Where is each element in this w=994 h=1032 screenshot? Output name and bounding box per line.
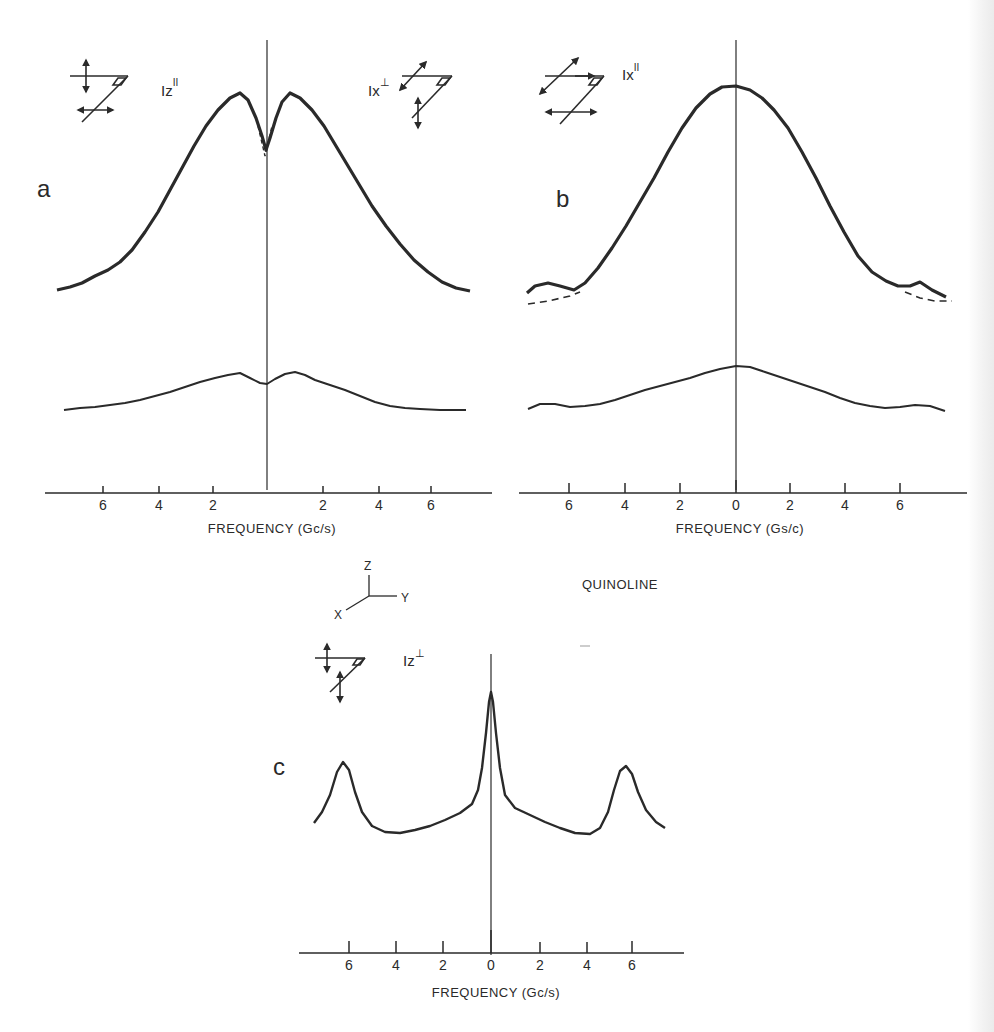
panel-a: IzII Ix⊥ a 6 4 [37, 40, 492, 536]
x-tick-labels-b: 6 4 2 0 2 4 6 [565, 497, 904, 513]
x-axis-label-b: FREQUENCY (Gs/c) [676, 521, 804, 536]
svg-text:4: 4 [583, 957, 591, 973]
spectrum-trace [314, 692, 665, 834]
svg-text:4: 4 [841, 497, 849, 513]
svg-text:2: 2 [536, 957, 544, 973]
panel-c-label: Iz⊥ [403, 647, 425, 669]
svg-text:4: 4 [155, 497, 163, 513]
svg-text:2: 2 [319, 497, 327, 513]
lower-spectrum-trace [64, 372, 466, 410]
panel-b-label: IxII [622, 62, 639, 83]
svg-text:0: 0 [487, 957, 495, 973]
x-axis-label-a: FREQUENCY (Gc/s) [208, 521, 336, 536]
scan-page-edge [968, 0, 994, 1032]
svg-text:2: 2 [676, 497, 684, 513]
x-tick-labels-c: 6 4 2 0 2 4 6 [345, 957, 636, 973]
svg-text:0: 0 [732, 497, 740, 513]
svg-text:6: 6 [896, 497, 904, 513]
panel-b-letter: b [556, 185, 569, 212]
polarization-diagram-icon [400, 62, 452, 128]
polarization-diagram-icon [70, 60, 128, 122]
x-axis-c [299, 930, 684, 953]
compound-name: QUINOLINE [582, 577, 658, 592]
x-axis-a [45, 486, 492, 493]
svg-text:2: 2 [209, 497, 217, 513]
svg-text:6: 6 [628, 957, 636, 973]
x-axis-label-c: FREQUENCY (Gc/s) [432, 985, 560, 1000]
svg-text:6: 6 [565, 497, 573, 513]
panel-a-label-right: Ix⊥ [368, 76, 390, 99]
svg-text:4: 4 [621, 497, 629, 513]
polarization-diagram-icon [540, 58, 604, 124]
panel-a-label-left: IzII [161, 77, 178, 99]
panel-c: Iz⊥ c 6 4 2 0 2 4 6 FREQUENCY (Gc/s) [273, 644, 684, 1000]
svg-text:6: 6 [427, 497, 435, 513]
panel-b: IxII b 6 4 2 0 2 4 6 FREQUENCY (Gs/c) [519, 40, 967, 536]
svg-text:6: 6 [345, 957, 353, 973]
svg-text:4: 4 [375, 497, 383, 513]
dashed-baseline-left [528, 292, 580, 304]
axis-x-label: X [334, 608, 342, 622]
svg-text:2: 2 [786, 497, 794, 513]
x-tick-labels-a: 6 4 2 2 4 6 [99, 497, 435, 513]
upper-spectrum-trace [57, 93, 470, 291]
axis-z-label: Z [364, 559, 371, 573]
x-axis-b [519, 480, 967, 493]
panel-a-letter: a [37, 175, 51, 202]
svg-text:6: 6 [99, 497, 107, 513]
figure-canvas: IzII Ix⊥ a 6 4 [0, 0, 994, 1032]
polarization-diagram-icon [315, 644, 365, 702]
coordinate-axes-icon [346, 575, 397, 610]
svg-text:2: 2 [439, 957, 447, 973]
panel-c-letter: c [273, 753, 285, 780]
axis-y-label: Y [401, 591, 409, 605]
svg-text:4: 4 [392, 957, 400, 973]
